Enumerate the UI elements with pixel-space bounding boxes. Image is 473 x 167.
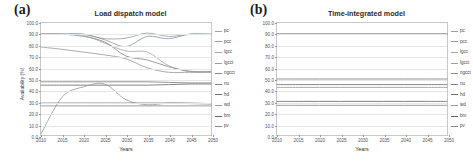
gridline	[41, 34, 211, 35]
panel-time-integrated-model: (b) Time-integrated model Availability (…	[236, 0, 471, 167]
legend-label-wd: wd	[460, 103, 466, 108]
x-axis-tick-label: 2040	[165, 138, 175, 143]
y-axis-tick-label: 10.0	[29, 123, 38, 128]
legend-label-pc: pc	[460, 29, 465, 34]
y-axis-tick-mark	[39, 114, 41, 115]
x-axis-tick-label: 2015	[57, 138, 67, 143]
legend-swatch-lgcct	[215, 63, 222, 64]
legend-swatch-wd	[451, 105, 458, 106]
x-axis-tick-label: 2010	[272, 138, 282, 143]
x-axis-tick-label: 2045	[422, 138, 432, 143]
legend-item-pv[interactable]: pv	[215, 121, 237, 132]
y-axis-tick-label: 90.0	[29, 32, 38, 37]
x-axis-tick-label: 2010	[36, 138, 46, 143]
y-axis-tick-mark	[39, 34, 41, 35]
legend-item-bm[interactable]: bm	[451, 111, 473, 122]
x-axis-tick-label: 2020	[79, 138, 89, 143]
legend-swatch-lgcct	[451, 63, 458, 64]
y-axis-tick-label: 30.0	[265, 100, 274, 105]
legend-label-lgcc: lgcc	[460, 50, 468, 55]
x-axis-tick-mark	[363, 135, 364, 137]
legend-item-pcc[interactable]: pcc	[451, 37, 473, 48]
y-axis-tick-mark	[275, 126, 277, 127]
y-axis-tick-label: 20.0	[265, 112, 274, 117]
x-axis-tick-label: 2050	[444, 138, 454, 143]
legend-item-hd[interactable]: hd	[451, 90, 473, 101]
legend-swatch-hd	[215, 94, 222, 95]
y-axis-tick-label: 100.0	[263, 21, 275, 26]
gridline	[277, 34, 447, 35]
series-line-hd	[41, 84, 211, 85]
y-axis-tick-label: 50.0	[265, 78, 274, 83]
legend-swatch-ngcct	[215, 73, 222, 74]
x-axis-tick-mark	[106, 135, 107, 137]
x-axis-tick-label: 2045	[186, 138, 196, 143]
legend-item-lgcct[interactable]: lgcct	[451, 58, 473, 69]
legend-item-pcc[interactable]: pcc	[215, 37, 237, 48]
y-axis-tick-mark	[275, 114, 277, 115]
x-axis-tick-mark	[149, 135, 150, 137]
panel-title-b: Time-integrated model	[236, 9, 471, 18]
y-axis-tick-mark	[39, 69, 41, 70]
legend-swatch-nu	[215, 84, 222, 85]
x-axis-tick-label: 2040	[401, 138, 411, 143]
panel-title-a: Load dispatch model	[0, 9, 235, 18]
x-axis-title-b: Years	[276, 146, 448, 152]
y-axis-tick-label: 80.0	[29, 43, 38, 48]
legend-label-lgcc: lgcc	[224, 50, 232, 55]
legend-item-pc[interactable]: pc	[451, 26, 473, 37]
gridline	[41, 57, 211, 58]
y-axis-tick-label: 70.0	[29, 55, 38, 60]
y-axis-tick-mark	[39, 23, 41, 24]
legend-item-pc[interactable]: pc	[215, 26, 237, 37]
legend-item-lgcc[interactable]: lgcc	[215, 47, 237, 58]
y-axis-tick-mark	[39, 57, 41, 58]
gridline	[277, 46, 447, 47]
gridline	[41, 69, 211, 70]
gridline	[41, 80, 211, 81]
y-axis-tick-mark	[275, 103, 277, 104]
gridline	[41, 126, 211, 127]
legend-label-hd: hd	[224, 93, 229, 98]
y-axis-tick-mark	[275, 91, 277, 92]
legend-swatch-pv	[215, 126, 222, 127]
legend-item-ngcct[interactable]: ngcct	[451, 68, 473, 79]
legend-label-nu: nu	[460, 82, 465, 87]
legend-item-pv[interactable]: pv	[451, 121, 473, 132]
x-axis-tick-mark	[127, 135, 128, 137]
legend-label-pcc: pcc	[460, 40, 467, 45]
y-axis-tick-label: 40.0	[265, 89, 274, 94]
x-axis-tick-mark	[170, 135, 171, 137]
y-axis-tick-label: 80.0	[265, 43, 274, 48]
legend-label-ngcct: ngcct	[460, 71, 471, 76]
legend-item-lgcct[interactable]: lgcct	[215, 58, 237, 69]
y-axis-tick-label: 70.0	[265, 55, 274, 60]
series-line-nu	[41, 82, 211, 83]
legend-swatch-wd	[215, 105, 222, 106]
legend-item-ngcct[interactable]: ngcct	[215, 68, 237, 79]
y-axis-title-a: Availability (%)	[19, 67, 25, 100]
x-axis-tick-label: 2025	[336, 138, 346, 143]
legend-item-wd[interactable]: wd	[451, 100, 473, 111]
y-axis-tick-mark	[275, 23, 277, 24]
x-axis-tick-mark	[63, 135, 64, 137]
legend-swatch-bm	[451, 116, 458, 117]
legend-item-lgcc[interactable]: lgcc	[451, 47, 473, 58]
legend-swatch-pc	[451, 31, 458, 32]
legend-item-bm[interactable]: bm	[215, 111, 237, 122]
series-line-ngcct	[41, 34, 211, 72]
legend-item-nu[interactable]: nu	[215, 79, 237, 90]
gridline	[277, 126, 447, 127]
x-axis-tick-mark	[192, 135, 193, 137]
legend-label-lgcct: lgcct	[224, 61, 233, 66]
legend-item-hd[interactable]: hd	[215, 90, 237, 101]
legend-item-wd[interactable]: wd	[215, 100, 237, 111]
legend-swatch-pv	[451, 126, 458, 127]
x-axis-tick-mark	[299, 135, 300, 137]
x-axis-tick-label: 2030	[122, 138, 132, 143]
y-axis-tick-label: 10.0	[265, 123, 274, 128]
legend-swatch-hd	[451, 94, 458, 95]
legend-item-nu[interactable]: nu	[451, 79, 473, 90]
legend-swatch-lgcc	[451, 52, 458, 53]
legend-label-ngcct: ngcct	[224, 71, 235, 76]
